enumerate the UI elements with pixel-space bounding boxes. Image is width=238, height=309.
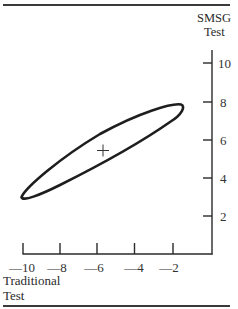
x-axis-title-line2: Test xyxy=(3,289,24,303)
chart-canvas xyxy=(0,0,238,309)
y-tick-label-10: 10 xyxy=(218,57,231,70)
scatter-ellipse-figure: SMSG Test 10 8 6 4 2 —10 —8 —6 —4 —2 Tra… xyxy=(0,0,238,309)
y-tick-label-8: 8 xyxy=(220,96,227,109)
centroid-plus-icon xyxy=(97,145,109,157)
x-tick-label-minus6: —6 xyxy=(84,261,104,274)
scatter-ellipse xyxy=(22,104,184,198)
x-tick-label-minus4: —4 xyxy=(124,261,144,274)
x-tick-label-minus2: —2 xyxy=(159,261,179,274)
y-axis-title-line2: Test xyxy=(204,25,225,39)
y-tick-label-4: 4 xyxy=(220,172,227,185)
x-axis-title-line1: Traditional xyxy=(3,274,60,288)
y-tick-label-2: 2 xyxy=(220,210,227,223)
y-tick-label-6: 6 xyxy=(220,134,227,147)
x-ticks xyxy=(23,243,173,254)
y-axis-title-line1: SMSG xyxy=(197,11,231,25)
y-ticks xyxy=(203,63,212,216)
